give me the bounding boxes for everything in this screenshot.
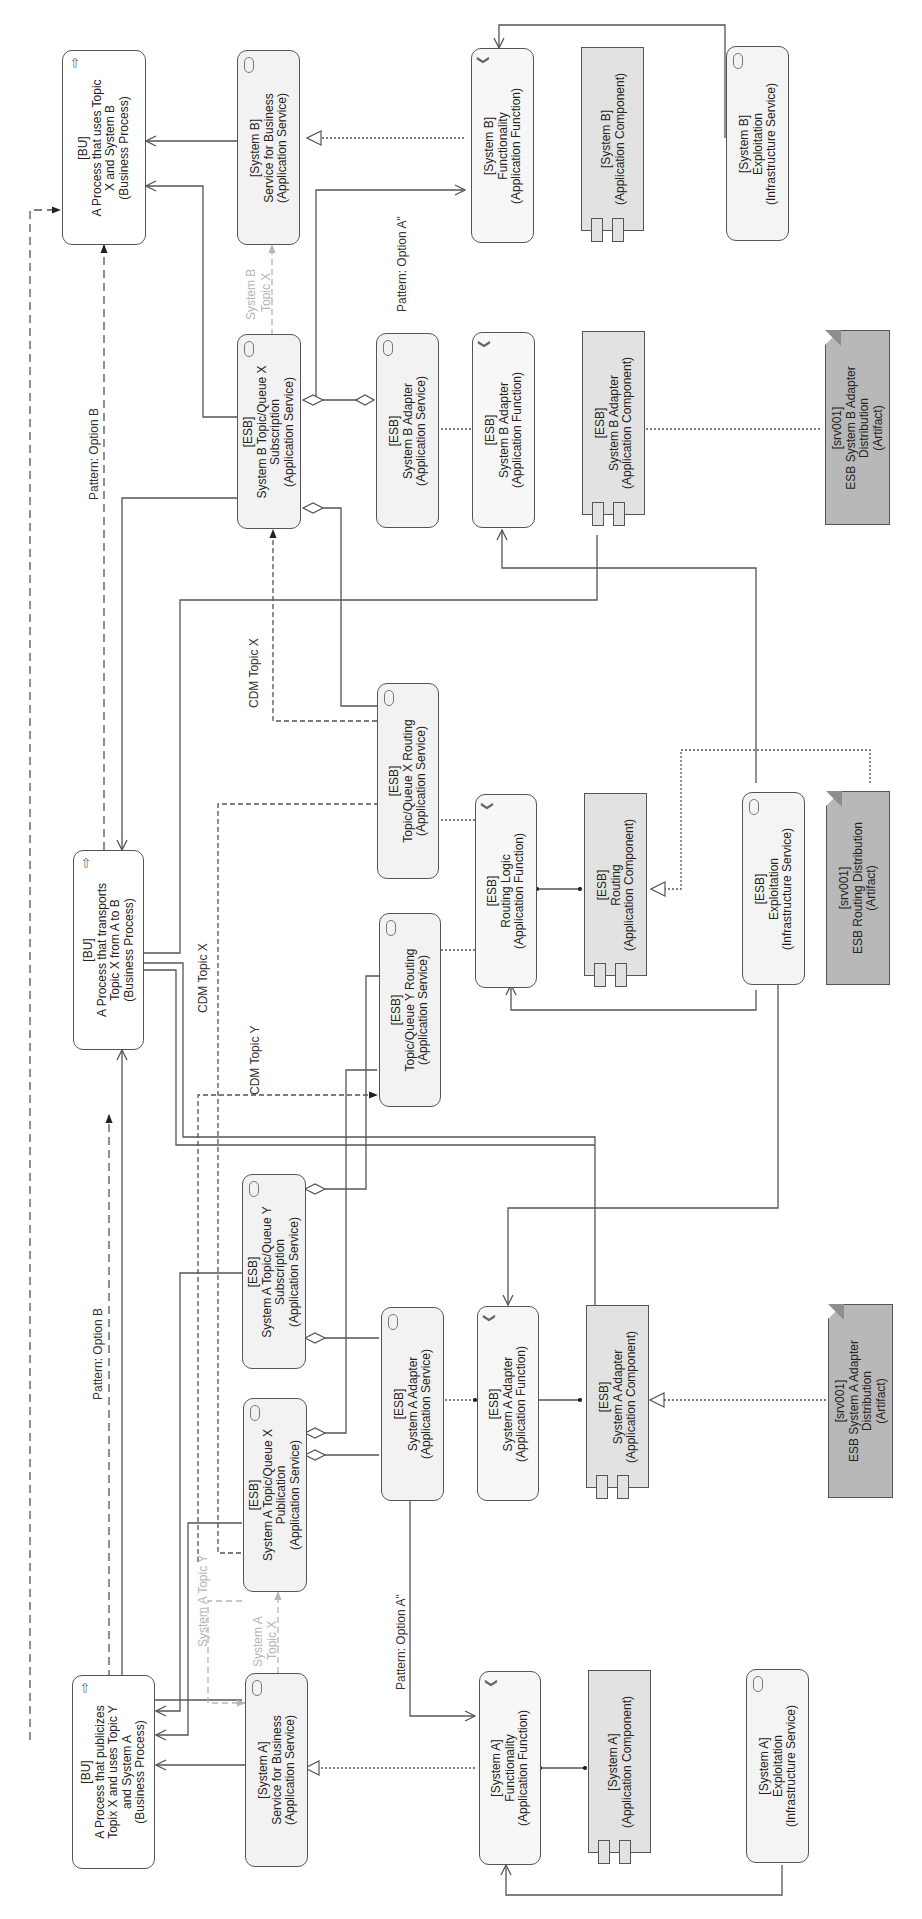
node-stereotype: [ESB] xyxy=(753,827,767,949)
node-type: (Application Service) xyxy=(419,1349,433,1459)
node-title: A Process that publicizes xyxy=(93,1705,107,1839)
node-title: Exploitation xyxy=(771,1705,785,1827)
node-type: (Application Function) xyxy=(513,833,527,949)
service-pill-icon xyxy=(753,1676,763,1692)
node-esb-sysa-subscription-y[interactable]: [ESB] System A Topic/Queue Y Subscriptio… xyxy=(242,1174,306,1369)
node-stereotype: [ESB] xyxy=(242,365,256,498)
node-stereotype: [System A] xyxy=(490,1710,504,1826)
function-chevron-icon: ❮ xyxy=(476,339,490,349)
node-sysa-service[interactable]: [System A] Service for Business (Applica… xyxy=(245,1673,308,1867)
node-esb-exploitation[interactable]: [ESB] Exploitation (Infrastructure Servi… xyxy=(742,792,805,985)
node-title: System B Adapter xyxy=(497,372,511,488)
node-esb-sysb-adapter-service[interactable]: [ESB] System B Adapter (Application Serv… xyxy=(376,333,439,528)
node-type: (Artifact) xyxy=(874,1340,888,1462)
process-arrow-icon: ⇨ xyxy=(78,857,93,868)
node-title: X and System B xyxy=(104,79,118,216)
node-type: (Business Process) xyxy=(118,79,132,216)
node-title: System B Adapter xyxy=(401,375,415,485)
service-pill-icon xyxy=(749,799,759,815)
node-esb-topic-y-routing[interactable]: [ESB] Topic/Queue Y Routing (Application… xyxy=(379,913,441,1107)
node-stereotype: [ESB] xyxy=(387,375,401,485)
node-type: (Business Process) xyxy=(134,1705,148,1839)
node-stereotype: [ESB] xyxy=(597,1330,611,1462)
node-stereotype: [System B] xyxy=(737,82,751,204)
node-bu-system-a[interactable]: ⇨ [BU] A Process that publicizes Topix X… xyxy=(72,1675,155,1869)
node-type: (Application Service) xyxy=(289,1429,303,1561)
node-esb-sysb-subscription[interactable]: [ESB] System B Topic/Queue X Subscriptio… xyxy=(237,334,301,529)
node-esb-sysa-publication-x[interactable]: [ESB] System A Topic/Queue X Publication… xyxy=(243,1398,307,1592)
node-title: ESB System A Adapter xyxy=(847,1340,861,1462)
node-type: (Application Component) xyxy=(622,818,636,950)
node-title: Topic/Queue Y Routing xyxy=(403,949,417,1072)
node-type: (Application Component) xyxy=(613,73,627,205)
node-artifact-sysb-adapter[interactable]: [srv001] ESB System B Adapter Distributi… xyxy=(825,330,890,525)
node-sysa-function[interactable]: ❮ [System A] Functionality (Application … xyxy=(479,1671,541,1865)
node-title: System B Adapter xyxy=(607,357,621,489)
node-type: (Infrastructure Service) xyxy=(784,1705,798,1827)
node-esb-sysb-adapter-component[interactable]: [ESB] System B Adapter (Application Comp… xyxy=(582,331,645,515)
node-type: (Infrastructure Service) xyxy=(780,827,794,949)
node-esb-sysb-adapter-function[interactable]: ❮ [ESB] System B Adapter (Application Fu… xyxy=(472,332,535,528)
node-stereotype: [ESB] xyxy=(390,949,404,1072)
node-bu-transport[interactable]: ⇨ [BU] A Process that transports Topic X… xyxy=(73,850,144,1050)
node-sysb-function[interactable]: ❮ [System B] Functionality (Application … xyxy=(471,48,534,243)
node-title: Service for Business xyxy=(270,1715,284,1825)
node-esb-sysa-adapter-function[interactable]: ❮ [ESB] System A Adapter (Application Fu… xyxy=(477,1306,539,1501)
node-sysa-component[interactable]: [System A] (Application Component) xyxy=(588,1670,651,1853)
node-title: Functionality xyxy=(496,87,510,203)
node-stereotype: [ESB] xyxy=(388,719,402,842)
node-artifact-routing[interactable]: [srv001] ESB Routing Distribution (Artif… xyxy=(826,791,890,985)
node-stereotype: [System A] xyxy=(256,1715,270,1825)
edge-label-topic-x-a: Topic X xyxy=(265,1621,279,1660)
node-type: (Application Component) xyxy=(624,1330,638,1462)
node-title: Topix X and uses Topic Y xyxy=(107,1705,121,1839)
node-sysa-exploitation[interactable]: [System A] Exploitation (Infrastructure … xyxy=(746,1669,809,1863)
node-title: System A Topic/Queue X xyxy=(262,1429,276,1561)
node-stereotype: [System B] xyxy=(248,92,262,202)
node-stereotype: [srv001] xyxy=(831,366,845,489)
node-stereotype: [srv001] xyxy=(838,822,852,954)
node-type: (Application Service) xyxy=(288,1206,302,1338)
node-type: (Application Function) xyxy=(510,372,524,488)
service-pill-icon xyxy=(252,1680,262,1696)
node-bu-system-b[interactable]: ⇨ [BU] A Process that uses Topic X and S… xyxy=(62,50,146,245)
edge-label-cdm-topic-y: CDM Topic Y xyxy=(248,1025,262,1095)
service-pill-icon xyxy=(733,53,743,69)
node-stereotype: [ESB] xyxy=(595,818,609,950)
node-title: Exploitation xyxy=(767,827,781,949)
node-title: System A Topic/Queue Y xyxy=(261,1206,275,1338)
node-type: (Artifact) xyxy=(871,366,885,489)
node-sysb-service[interactable]: [System B] Service for Business (Applica… xyxy=(237,50,300,245)
node-stereotype: [BU] xyxy=(80,1705,94,1839)
node-stereotype: [ESB] xyxy=(486,833,500,949)
node-title: Routing xyxy=(609,818,623,950)
node-stereotype: [ESB] xyxy=(488,1345,502,1461)
node-artifact-sysa-adapter[interactable]: [srv001] ESB System A Adapter Distributi… xyxy=(828,1304,893,1498)
node-esb-topic-x-routing[interactable]: [ESB] Topic/Queue X Routing (Application… xyxy=(377,683,439,879)
node-esb-sysa-adapter-component[interactable]: [ESB] System A Adapter (Application Comp… xyxy=(586,1305,649,1488)
service-pill-icon xyxy=(384,690,394,706)
edge-label-pattern-a-bottom: Pattern: Option A" xyxy=(394,1594,408,1690)
service-pill-icon xyxy=(244,341,254,357)
node-esb-routing-component[interactable]: [ESB] Routing (Application Component) xyxy=(584,793,647,976)
node-esb-routing-logic[interactable]: ❮ [ESB] Routing Logic (Application Funct… xyxy=(475,794,537,988)
function-chevron-icon: ❮ xyxy=(481,1313,495,1323)
node-title: Distribution xyxy=(861,1340,875,1462)
node-type: (Application Function) xyxy=(509,87,523,203)
node-title: ESB Routing Distribution xyxy=(851,822,865,954)
service-pill-icon xyxy=(244,57,254,73)
node-type: (Application Function) xyxy=(517,1710,531,1826)
node-stereotype: [BU] xyxy=(82,883,96,1017)
service-pill-icon xyxy=(250,1405,260,1421)
node-title: ESB System B Adapter xyxy=(844,366,858,489)
process-arrow-icon: ⇨ xyxy=(67,57,82,68)
node-title: A Process that uses Topic xyxy=(91,79,105,216)
node-title: Routing Logic xyxy=(499,833,513,949)
node-sysb-exploitation[interactable]: [System B] Exploitation (Infrastructure … xyxy=(726,46,789,241)
node-title: System A Adapter xyxy=(501,1345,515,1461)
node-esb-sysa-adapter-service[interactable]: [ESB] System A Adapter (Application Serv… xyxy=(381,1307,444,1501)
edge-label-system-a-topic-y: System A Topic Y xyxy=(196,1555,210,1647)
node-stereotype: [BU] xyxy=(77,79,91,216)
node-sysb-component[interactable]: [System B] (Application Component) xyxy=(581,47,644,231)
edge-label-system-b: System B xyxy=(244,269,258,320)
